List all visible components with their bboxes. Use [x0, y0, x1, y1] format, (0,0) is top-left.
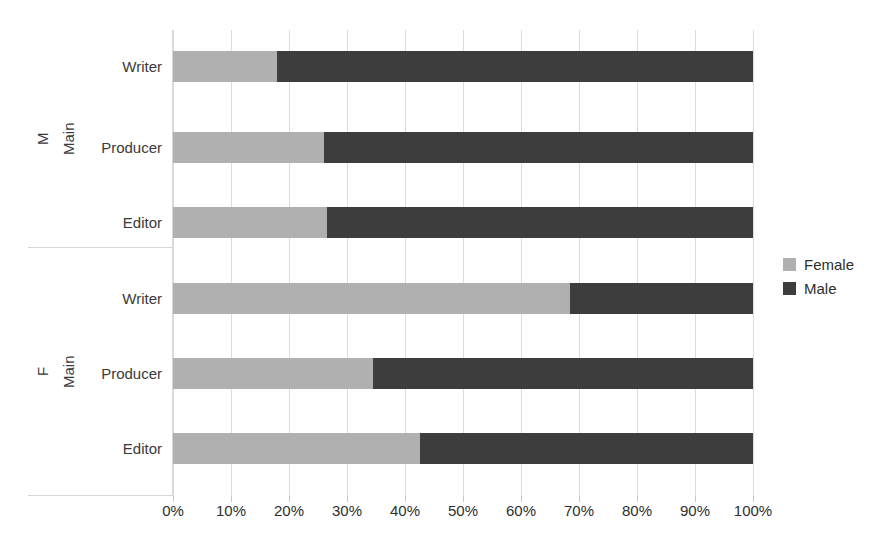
- axis-category-label-m-editor: Editor: [123, 214, 162, 231]
- bar-segment-female[interactable]: [173, 207, 327, 238]
- axis-category-label-f-producer: Producer: [101, 365, 162, 382]
- axis-category-label-f-writer: Writer: [122, 290, 162, 307]
- legend-swatch-male-icon: [783, 282, 796, 295]
- x-axis-tick-label: 10%: [216, 502, 246, 519]
- legend-swatch-female-icon: [783, 258, 796, 271]
- gridline: [695, 30, 696, 496]
- bar-m-editor[interactable]: [173, 207, 753, 238]
- axis-group-inner-label-main-bottom: Main: [60, 248, 77, 495]
- x-axis-tick-label: 70%: [564, 502, 594, 519]
- gridline: [173, 30, 174, 496]
- gridline: [289, 30, 290, 496]
- bar-segment-female[interactable]: [173, 358, 373, 389]
- gridline: [231, 30, 232, 496]
- axis-category-label-m-writer: Writer: [122, 58, 162, 75]
- x-axis-tick-label: 30%: [332, 502, 362, 519]
- bar-segment-male[interactable]: [373, 358, 753, 389]
- x-axis-tick-label: 100%: [734, 502, 772, 519]
- axis-group-female: F Main Writer Producer Editor: [28, 248, 173, 496]
- bar-segment-male[interactable]: [420, 433, 754, 464]
- x-axis-tick-label: 40%: [390, 502, 420, 519]
- gridline: [405, 30, 406, 496]
- axis-group-inner-label-main-top: Main: [60, 30, 77, 247]
- bar-segment-male[interactable]: [324, 132, 753, 163]
- x-axis-tick-label: 60%: [506, 502, 536, 519]
- bar-segment-female[interactable]: [173, 433, 420, 464]
- x-axis-tick-label: 50%: [448, 502, 478, 519]
- gridline: [463, 30, 464, 496]
- gridline: [753, 30, 754, 496]
- x-axis-tick-label: 90%: [680, 502, 710, 519]
- bar-segment-female[interactable]: [173, 51, 277, 82]
- legend: Female Male: [783, 252, 883, 300]
- bar-segment-male[interactable]: [277, 51, 753, 82]
- legend-item-female[interactable]: Female: [783, 252, 883, 276]
- bar-segment-male[interactable]: [327, 207, 753, 238]
- x-axis-tick-label: 20%: [274, 502, 304, 519]
- legend-label-female: Female: [804, 256, 854, 273]
- bar-segment-female[interactable]: [173, 132, 324, 163]
- bar-m-producer[interactable]: [173, 132, 753, 163]
- bar-segment-male[interactable]: [570, 283, 753, 314]
- bar-f-producer[interactable]: [173, 358, 753, 389]
- axis-group-outer-label-m: M: [34, 30, 51, 247]
- gridline: [579, 30, 580, 496]
- gridline: [637, 30, 638, 496]
- stacked-bar-chart: M Main Writer Producer Editor F Main Wri…: [0, 0, 890, 553]
- gridline: [521, 30, 522, 496]
- bar-f-editor[interactable]: [173, 433, 753, 464]
- plot-area: [173, 30, 753, 496]
- gridline: [347, 30, 348, 496]
- x-axis-tick-labels: 0%10%20%30%40%50%60%70%80%90%100%: [173, 502, 753, 528]
- bar-segment-female[interactable]: [173, 283, 570, 314]
- axis-group-outer-label-f: F: [34, 248, 51, 495]
- bar-f-writer[interactable]: [173, 283, 753, 314]
- x-axis-tick-label: 0%: [162, 502, 184, 519]
- legend-label-male: Male: [804, 280, 837, 297]
- axis-category-label-m-producer: Producer: [101, 139, 162, 156]
- legend-item-male[interactable]: Male: [783, 276, 883, 300]
- axis-category-label-f-editor: Editor: [123, 440, 162, 457]
- x-axis-tick-label: 80%: [622, 502, 652, 519]
- axis-group-male: M Main Writer Producer Editor: [28, 30, 173, 248]
- bar-m-writer[interactable]: [173, 51, 753, 82]
